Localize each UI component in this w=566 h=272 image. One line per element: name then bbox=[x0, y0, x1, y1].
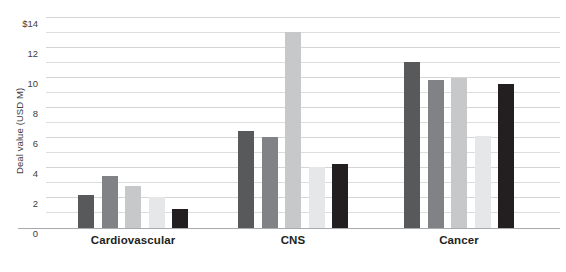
bar-chart: Deal value (USD M) 024681012$14 Cardiova… bbox=[0, 0, 566, 272]
x-axis-line bbox=[18, 228, 560, 229]
bar[interactable] bbox=[238, 131, 254, 229]
bar[interactable] bbox=[332, 164, 348, 228]
category-label: Cardiovascular bbox=[91, 234, 176, 246]
bar[interactable] bbox=[498, 84, 514, 228]
bar-groups bbox=[46, 18, 560, 228]
bar[interactable] bbox=[172, 209, 188, 228]
bar[interactable] bbox=[475, 136, 491, 228]
plot-area bbox=[46, 18, 560, 228]
bar-group-bars bbox=[404, 18, 514, 228]
bar-group bbox=[78, 18, 188, 228]
bar[interactable] bbox=[451, 78, 467, 228]
bar[interactable] bbox=[285, 32, 301, 229]
bar[interactable] bbox=[78, 195, 94, 228]
bar[interactable] bbox=[262, 137, 278, 228]
y-axis-tick-labels: 024681012$14 bbox=[0, 18, 42, 228]
bar[interactable] bbox=[309, 167, 325, 228]
category-axis-labels: CardiovascularCNSCancer bbox=[46, 234, 560, 258]
bar-group bbox=[238, 18, 348, 228]
bar-group-bars bbox=[238, 18, 348, 228]
bar[interactable] bbox=[404, 62, 420, 229]
category-label: CNS bbox=[281, 234, 306, 246]
bar[interactable] bbox=[149, 197, 165, 229]
bar-group-bars bbox=[78, 18, 188, 228]
bar[interactable] bbox=[102, 176, 118, 228]
bar-group bbox=[404, 18, 514, 228]
bar[interactable] bbox=[428, 80, 444, 229]
bar[interactable] bbox=[125, 186, 141, 228]
category-label: Cancer bbox=[439, 234, 479, 246]
